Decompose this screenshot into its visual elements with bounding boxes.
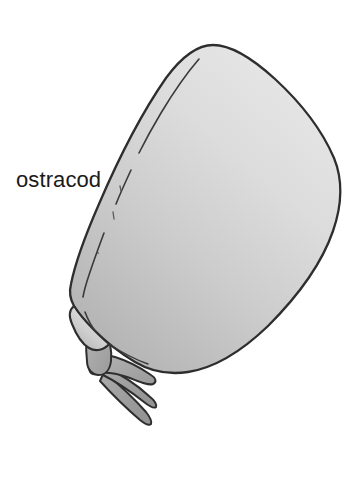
- carapace-shell: [70, 45, 340, 373]
- ostracod-illustration: [0, 0, 358, 484]
- ostracod-figure: ostracod: [0, 0, 358, 484]
- shell-texture-dot: [97, 252, 99, 254]
